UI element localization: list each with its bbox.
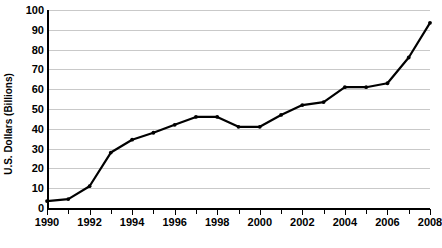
x-axis-tick-label: 1992 [77, 217, 101, 228]
data-point [88, 184, 92, 188]
x-axis-tick [111, 209, 112, 214]
data-point [322, 100, 326, 104]
y-axis-line [47, 10, 49, 209]
x-axis-tick [302, 209, 303, 215]
plot-area [47, 10, 430, 208]
x-axis-tick-label: 1994 [120, 217, 144, 228]
y-axis-tick-label: 40 [14, 123, 44, 134]
data-point [109, 151, 113, 155]
data-point [407, 56, 411, 60]
x-axis-tick-label: 1996 [162, 217, 186, 228]
data-point [364, 85, 368, 89]
x-axis-tick-label: 1990 [35, 217, 59, 228]
x-axis-tick [260, 209, 261, 215]
x-axis-tick [324, 209, 325, 214]
data-point [343, 85, 347, 89]
data-point [151, 131, 155, 135]
x-axis-tick [47, 209, 48, 215]
y-axis-tick-label: 10 [14, 183, 44, 194]
x-axis-tick [217, 209, 218, 215]
x-axis-tick [345, 209, 346, 215]
data-point [279, 113, 283, 117]
x-axis-tick-label: 2008 [418, 217, 442, 228]
x-axis-tick [366, 209, 367, 214]
x-axis-tick-label: 2002 [290, 217, 314, 228]
y-axis-tick-label: 90 [14, 24, 44, 35]
x-axis-tick-label: 2000 [248, 217, 272, 228]
y-axis-tick-labels: 0102030405060708090100 [14, 0, 44, 248]
y-axis-tick-label: 0 [14, 203, 44, 214]
data-point [386, 81, 390, 85]
x-axis-tick [387, 209, 388, 215]
data-point [428, 21, 432, 25]
x-axis-tick [196, 209, 197, 214]
data-point [237, 125, 241, 129]
x-axis-tick [175, 209, 176, 215]
y-axis-tick-label: 50 [14, 104, 44, 115]
x-axis-tick-label: 2004 [333, 217, 357, 228]
x-axis-tick [409, 209, 410, 214]
x-axis-tick-label: 1998 [205, 217, 229, 228]
line-series [47, 10, 430, 208]
data-point [194, 115, 198, 119]
data-line [47, 23, 430, 201]
y-axis-tick-label: 60 [14, 84, 44, 95]
x-axis-tick [430, 209, 431, 215]
x-axis-tick [68, 209, 69, 214]
y-axis-tick-label: 80 [14, 44, 44, 55]
data-point-markers [45, 21, 432, 203]
data-point [130, 138, 134, 142]
x-axis-tick [90, 209, 91, 215]
x-axis-tick [132, 209, 133, 215]
data-point [66, 197, 70, 201]
data-point [300, 103, 304, 107]
x-axis-tick [239, 209, 240, 214]
x-axis-tick [281, 209, 282, 214]
x-axis-tick-label: 2006 [375, 217, 399, 228]
y-axis-tick-label: 30 [14, 143, 44, 154]
data-point [258, 125, 262, 129]
y-axis-tick-label: 70 [14, 64, 44, 75]
y-axis-tick-label: 20 [14, 163, 44, 174]
data-point [215, 115, 219, 119]
x-axis-tick [153, 209, 154, 214]
y-axis-tick-label: 100 [14, 5, 44, 16]
data-point [173, 123, 177, 127]
